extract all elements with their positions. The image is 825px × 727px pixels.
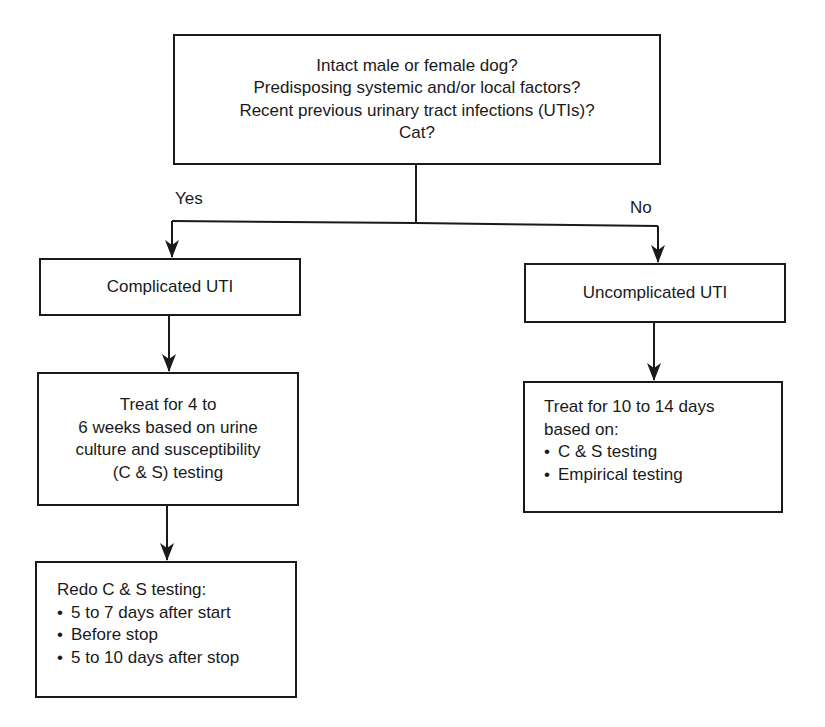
bullet-icon: • [57, 602, 71, 625]
bullet-icon: • [544, 464, 558, 487]
retest-item-text: 5 to 10 days after stop [71, 648, 239, 667]
uncomplicated-treatment-item-text: Empirical testing [558, 465, 683, 484]
retest-item-text: 5 to 7 days after start [71, 603, 231, 622]
uncomplicated-treatment-box: Treat for 10 to 14 days based on: •C & S… [523, 381, 783, 513]
no-label: No [630, 198, 652, 218]
bullet-icon: • [57, 647, 71, 670]
treatment-line: culture and susceptibility [75, 439, 260, 462]
retest-item: •5 to 10 days after stop [57, 647, 295, 670]
complicated-uti-box: Complicated UTI [39, 258, 301, 316]
retest-item: •Before stop [57, 624, 295, 647]
uti-flowchart: Intact male or female dog? Predisposing … [0, 0, 825, 727]
question-line: Predisposing systemic and/or local facto… [254, 77, 581, 100]
complicated-uti-title: Complicated UTI [107, 276, 234, 299]
question-line: Cat? [399, 122, 435, 145]
question-line: Recent previous urinary tract infections… [239, 100, 594, 123]
treatment-line: (C & S) testing [113, 462, 224, 485]
retest-box: Redo C & S testing: •5 to 7 days after s… [35, 561, 297, 698]
uncomplicated-treatment-item: •Empirical testing [544, 464, 781, 487]
question-box: Intact male or female dog? Predisposing … [173, 34, 661, 165]
retest-heading: Redo C & S testing: [57, 579, 295, 602]
treatment-line: 6 weeks based on urine [78, 417, 258, 440]
uncomplicated-treatment-item: •C & S testing [544, 441, 781, 464]
retest-item: •5 to 7 days after start [57, 602, 295, 625]
uncomplicated-uti-box: Uncomplicated UTI [524, 263, 786, 323]
uncomplicated-treatment-heading: Treat for 10 to 14 days [544, 396, 781, 419]
uncomplicated-treatment-heading: based on: [544, 419, 781, 442]
complicated-treatment-box: Treat for 4 to 6 weeks based on urine cu… [37, 372, 299, 506]
uncomplicated-uti-title: Uncomplicated UTI [583, 282, 728, 305]
uncomplicated-treatment-item-text: C & S testing [558, 442, 657, 461]
retest-item-text: Before stop [71, 625, 158, 644]
bullet-icon: • [544, 441, 558, 464]
treatment-line: Treat for 4 to [120, 394, 217, 417]
question-line: Intact male or female dog? [316, 55, 517, 78]
yes-label: Yes [175, 189, 203, 209]
bullet-icon: • [57, 624, 71, 647]
